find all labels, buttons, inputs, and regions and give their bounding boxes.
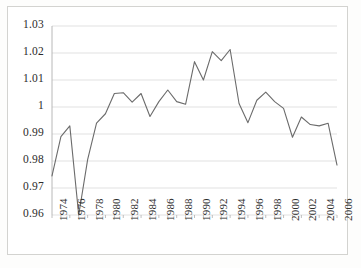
x-axis-tick-label: 2000: [289, 198, 301, 221]
x-axis-tick-label: 1986: [164, 198, 176, 221]
x-axis-tick-label: 1976: [75, 198, 87, 221]
x-axis-tick-label: 2004: [324, 198, 336, 221]
chart-frame: 1.031.021.0110.990.980.970.96 1974197619…: [7, 6, 348, 255]
x-axis-tick-label: 1998: [271, 198, 283, 221]
chart-figure: 1.031.021.0110.990.980.970.96 1974197619…: [0, 0, 361, 268]
x-axis-tick-label: 1982: [128, 198, 140, 221]
x-axis-tick-label: 1980: [110, 198, 122, 221]
plot-background: [52, 26, 337, 215]
x-axis-tick-label: 1978: [93, 198, 105, 221]
x-axis-tick-label: 1994: [235, 198, 247, 221]
x-axis-tick-label: 1974: [57, 198, 69, 221]
x-axis-tick-label: 2006: [342, 198, 354, 221]
x-axis-tick-label: 1990: [200, 198, 212, 221]
x-axis-tick-label: 1988: [182, 198, 194, 221]
x-axis-tick-label: 1992: [217, 198, 229, 221]
x-axis-tick-label: 2002: [306, 198, 318, 221]
x-axis-tick-label: 1984: [146, 198, 158, 221]
plot-area-background: [52, 26, 337, 215]
x-axis-tick-label: 1996: [253, 198, 265, 221]
